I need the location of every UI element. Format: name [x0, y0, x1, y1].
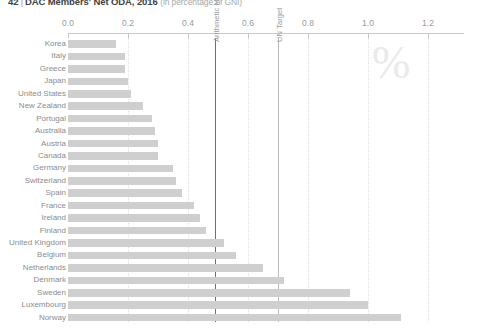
x-tick-label-1.2: 1.2: [422, 18, 434, 28]
bar-row: Korea: [0, 38, 487, 50]
bar: [68, 301, 368, 309]
category-label: Norway: [39, 312, 66, 324]
bar: [68, 165, 173, 173]
bar-row: Netherlands: [0, 262, 487, 274]
bar-row: Greece: [0, 63, 487, 75]
bar: [68, 202, 194, 210]
bar-row: Ireland: [0, 212, 487, 224]
reference-label-un-target: UN Target: [275, 7, 284, 42]
bar-row: Austria: [0, 138, 487, 150]
x-tick-label-0.4: 0.4: [182, 18, 194, 28]
reference-label-arithmetic-mean: Arithmetic Mean: [212, 0, 221, 42]
category-label: Germany: [33, 162, 66, 174]
bar: [68, 252, 236, 260]
bar: [68, 177, 176, 185]
category-label: France: [41, 200, 66, 212]
x-tick-label-1.0: 1.0: [362, 18, 374, 28]
category-label: Spain: [46, 187, 66, 199]
bar-row: Italy: [0, 50, 487, 62]
bar: [68, 102, 143, 110]
bar: [68, 277, 284, 285]
category-label: Luxembourg: [22, 299, 66, 311]
category-label: New Zealand: [19, 100, 66, 112]
chart-subtitle: (in percentage of GNI): [160, 0, 242, 7]
category-label: Portugal: [36, 113, 66, 125]
bar: [68, 152, 158, 160]
bar: [68, 289, 350, 297]
category-label: Italy: [51, 50, 66, 62]
bar-row: Germany: [0, 162, 487, 174]
bar: [68, 65, 125, 73]
bar: [68, 227, 206, 235]
bar-row: France: [0, 200, 487, 212]
bar-row: Norway: [0, 312, 487, 324]
category-label: Canada: [38, 150, 66, 162]
bar-row: Switzerland: [0, 175, 487, 187]
bar-row: New Zealand: [0, 100, 487, 112]
category-label: United Kingdom: [9, 237, 66, 249]
chart-title: 42|DAC Members' Net ODA, 2016 (in percen…: [8, 0, 242, 10]
category-label: Ireland: [42, 212, 66, 224]
category-label: Austria: [41, 138, 66, 150]
x-tick-label-0.0: 0.0: [62, 18, 74, 28]
bar: [68, 140, 158, 148]
bar: [68, 53, 125, 61]
category-label: Belgium: [37, 249, 66, 261]
bar: [68, 78, 128, 86]
category-label: Sweden: [37, 287, 66, 299]
bar-row: Japan: [0, 75, 487, 87]
bar-row: Canada: [0, 150, 487, 162]
bar-row: Belgium: [0, 249, 487, 261]
category-label: Greece: [40, 63, 66, 75]
x-tick-label-0.2: 0.2: [122, 18, 134, 28]
bar: [68, 314, 401, 322]
bar: [68, 189, 182, 197]
bar: [68, 264, 263, 272]
bar: [68, 40, 116, 48]
chart-title-number: 42: [8, 0, 18, 7]
bar-row: Denmark: [0, 274, 487, 286]
x-tick-label-0.8: 0.8: [302, 18, 314, 28]
chart-title-main: DAC Members' Net ODA, 2016: [25, 0, 158, 7]
chart-figure: 42|DAC Members' Net ODA, 2016 (in percen…: [0, 0, 487, 328]
bar: [68, 90, 131, 98]
category-label: Finland: [40, 225, 66, 237]
category-label: Denmark: [34, 274, 66, 286]
bar-row: United States: [0, 88, 487, 100]
bar-row: Sweden: [0, 287, 487, 299]
bar-row: Spain: [0, 187, 487, 199]
bar: [68, 115, 152, 123]
category-label: Switzerland: [25, 175, 66, 187]
category-label: Netherlands: [23, 262, 66, 274]
bar-row: Australia: [0, 125, 487, 137]
category-label: United States: [18, 88, 66, 100]
category-label: Korea: [45, 38, 66, 50]
bar-row: United Kingdom: [0, 237, 487, 249]
category-label: Japan: [44, 75, 66, 87]
bar: [68, 127, 155, 135]
bar: [68, 214, 200, 222]
x-tick-label-0.6: 0.6: [242, 18, 254, 28]
category-label: Australia: [35, 125, 66, 137]
bar-row: Finland: [0, 225, 487, 237]
bar: [68, 239, 224, 247]
bar-rows: KoreaItalyGreeceJapanUnited StatesNew Ze…: [0, 38, 487, 324]
bar-row: Luxembourg: [0, 299, 487, 311]
bar-row: Portugal: [0, 113, 487, 125]
